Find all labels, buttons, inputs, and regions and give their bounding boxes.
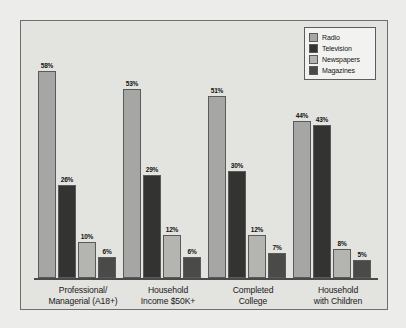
bar-wrap-television: 43% — [313, 54, 331, 278]
bar-magazines[interactable] — [268, 253, 286, 278]
bar-value-label: 44% — [296, 111, 308, 120]
bar-magazines[interactable] — [353, 260, 371, 278]
bar-value-label: 6% — [188, 247, 197, 256]
bar-value-label: 12% — [166, 225, 178, 234]
bar-wrap-newspapers: 12% — [248, 54, 266, 278]
bar-wrap-newspapers: 12% — [163, 54, 181, 278]
bar-newspapers[interactable] — [163, 235, 181, 278]
bar-value-label: 29% — [146, 165, 158, 174]
bar-group: 51% 30% 12% 7% — [208, 54, 286, 278]
legend-swatch-icon — [309, 33, 318, 42]
bar-value-label: 10% — [81, 232, 93, 241]
bar-value-label: 5% — [358, 250, 367, 259]
bar-value-label: 12% — [251, 225, 263, 234]
bar-value-label: 8% — [338, 239, 347, 248]
legend-swatch-icon — [309, 44, 318, 53]
bar-wrap-magazines: 6% — [98, 54, 116, 278]
bar-wrap-radio: 53% — [123, 54, 141, 278]
bar-value-label: 6% — [103, 247, 112, 256]
bar-radio[interactable] — [38, 71, 56, 278]
legend-item-newspapers[interactable]: Newspapers — [309, 54, 370, 64]
bar-wrap-television: 29% — [143, 54, 161, 278]
bar-group: 58% 26% 10% 6% — [38, 54, 116, 278]
bar-magazines[interactable] — [98, 257, 116, 278]
chart-legend: Radio Television Newspapers Magazines — [304, 27, 376, 80]
bar-radio[interactable] — [293, 121, 311, 278]
bar-television[interactable] — [313, 125, 331, 278]
bar-value-label: 58% — [41, 61, 53, 70]
bar-wrap-radio: 58% — [38, 54, 56, 278]
bar-group: 44% 43% 8% 5% — [293, 54, 371, 278]
bar-wrap-television: 26% — [58, 54, 76, 278]
bar-newspapers[interactable] — [78, 242, 96, 278]
legend-item-label: Radio — [322, 34, 340, 41]
bar-wrap-magazines: 6% — [183, 54, 201, 278]
legend-item-television[interactable]: Television — [309, 43, 370, 53]
bar-television[interactable] — [58, 185, 76, 278]
bar-wrap-magazines: 5% — [353, 54, 371, 278]
bar-television[interactable] — [228, 171, 246, 278]
bar-wrap-magazines: 7% — [268, 54, 286, 278]
x-axis-line — [34, 278, 378, 280]
bar-value-label: 43% — [316, 115, 328, 124]
plot-area: 58% 26% 10% 6% 53% — [21, 21, 389, 311]
legend-item-radio[interactable]: Radio — [309, 32, 370, 42]
legend-swatch-icon — [309, 55, 318, 64]
bar-newspapers[interactable] — [248, 235, 266, 278]
bar-value-label: 30% — [231, 161, 243, 170]
legend-item-label: Magazines — [322, 67, 355, 74]
category-label-line: Household — [283, 285, 393, 296]
chart-frame: 58% 26% 10% 6% 53% — [20, 20, 388, 310]
legend-item-label: Newspapers — [322, 56, 360, 63]
legend-item-label: Television — [322, 45, 352, 52]
page-background: 58% 26% 10% 6% 53% — [0, 0, 406, 328]
bar-wrap-radio: 51% — [208, 54, 226, 278]
legend-swatch-icon — [309, 66, 318, 75]
bar-value-label: 7% — [273, 243, 282, 252]
bar-wrap-newspapers: 8% — [333, 54, 351, 278]
bar-radio[interactable] — [208, 96, 226, 278]
bar-radio[interactable] — [123, 89, 141, 278]
bar-value-label: 53% — [126, 79, 138, 88]
bar-wrap-newspapers: 10% — [78, 54, 96, 278]
category-label-line: with Children — [283, 296, 393, 307]
bar-wrap-radio: 44% — [293, 54, 311, 278]
bar-television[interactable] — [143, 175, 161, 278]
bar-magazines[interactable] — [183, 257, 201, 278]
bar-wrap-television: 30% — [228, 54, 246, 278]
bar-value-label: 51% — [211, 86, 223, 95]
bar-value-label: 26% — [61, 175, 73, 184]
bar-group: 53% 29% 12% 6% — [123, 54, 201, 278]
bar-newspapers[interactable] — [333, 249, 351, 278]
legend-item-magazines[interactable]: Magazines — [309, 65, 370, 75]
x-axis-category-label: Household with Children — [283, 285, 393, 307]
